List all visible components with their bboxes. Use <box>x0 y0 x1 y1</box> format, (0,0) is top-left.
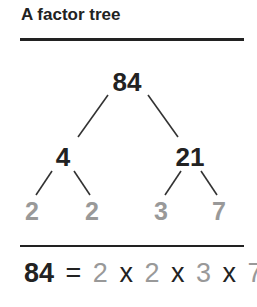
branch-4-2b <box>74 171 90 195</box>
node-21: 21 <box>176 144 205 170</box>
equation-factor: 7 <box>248 258 257 288</box>
leaf-7: 7 <box>212 199 226 224</box>
times-sign: x <box>167 258 189 288</box>
leaf-2a: 2 <box>25 199 39 224</box>
times-sign: x <box>219 258 241 288</box>
bottom-divider <box>20 245 244 247</box>
branch-84-21 <box>148 95 178 137</box>
node-4: 4 <box>56 144 70 170</box>
factor-equation: 84 = 2 x 2 x 3 x 7 <box>24 260 257 287</box>
branch-4-2a <box>36 171 52 195</box>
branch-21-3 <box>165 171 181 195</box>
leaf-3: 3 <box>154 199 168 224</box>
times-sign: x <box>115 258 137 288</box>
equals-sign: = <box>62 258 86 288</box>
branch-21-7 <box>201 171 217 195</box>
equation-factor: 2 <box>93 258 108 288</box>
equation-factor: 2 <box>144 258 159 288</box>
root-node: 84 <box>113 69 142 95</box>
equation-number: 84 <box>24 258 54 288</box>
equation-factor: 3 <box>196 258 211 288</box>
branch-84-4 <box>78 95 108 137</box>
leaf-2b: 2 <box>85 199 99 224</box>
